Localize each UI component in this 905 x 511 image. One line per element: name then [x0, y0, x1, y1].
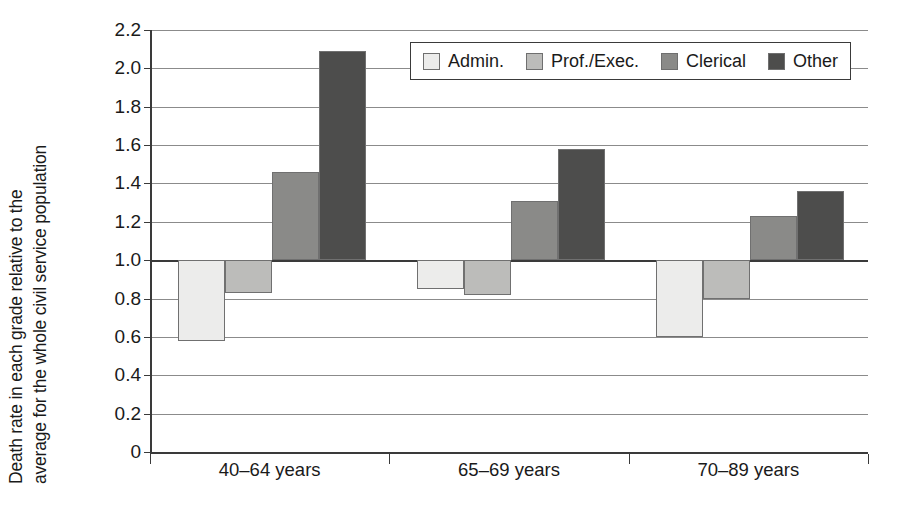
y-tick-label: 0.2	[115, 403, 141, 425]
y-tick-mark-0.8	[144, 299, 152, 300]
y-tick-mark-0.4	[144, 375, 152, 376]
bar-prof-exec-group-2	[464, 260, 511, 295]
y-tick-mark-2.0	[144, 68, 152, 69]
y-tick-label: 1.2	[115, 211, 141, 233]
x-tick-mark	[150, 454, 151, 464]
plot-area: 00.20.40.60.81.01.21.41.61.82.02.2	[150, 30, 868, 452]
bar-other-group-3	[797, 191, 844, 260]
y-tick-mark-1.0	[144, 260, 152, 261]
x-tick-mark	[629, 454, 630, 464]
bar-clerical-group-2	[511, 201, 558, 260]
y-tick-label: 2.0	[115, 57, 141, 79]
bar-admin-group-3	[656, 260, 703, 337]
bar-other-group-1	[319, 51, 366, 260]
y-tick-label: 1.4	[115, 172, 141, 194]
bar-admin-group-2	[417, 260, 464, 289]
bar-prof-exec-group-1	[225, 260, 272, 293]
legend-swatch-admin	[423, 53, 440, 70]
chart-figure: Death rate in each grade relative to the…	[0, 0, 905, 511]
legend-label: Clerical	[686, 51, 746, 72]
legend-label: Admin.	[448, 51, 504, 72]
bar-other-group-2	[558, 149, 605, 260]
y-tick-label: 0.8	[115, 288, 141, 310]
y-axis-title-line-1: Death rate in each grade relative to the	[6, 22, 28, 484]
y-tick-label: 0	[130, 441, 141, 463]
y-tick-mark-2.2	[144, 30, 152, 31]
legend-swatch-clerical	[661, 53, 678, 70]
legend-swatch-prof-exec	[526, 53, 543, 70]
x-axis	[150, 452, 868, 454]
bar-clerical-group-3	[750, 216, 797, 260]
y-tick-mark-1.8	[144, 107, 152, 108]
y-tick-label: 0.4	[115, 364, 141, 386]
y-tick-label: 1.6	[115, 134, 141, 156]
x-category-label-3: 70–89 years	[697, 459, 799, 481]
y-axis-title: Death rate in each grade relative to the…	[0, 0, 96, 470]
bar-prof-exec-group-3	[703, 260, 750, 298]
legend-swatch-other	[768, 53, 785, 70]
chart-legend: Admin.Prof./Exec.ClericalOther	[410, 42, 851, 80]
x-category-label-1: 40–64 years	[219, 459, 321, 481]
legend-item-other[interactable]: Other	[768, 51, 838, 72]
y-tick-label: 1.8	[115, 96, 141, 118]
y-tick-mark-1.4	[144, 183, 152, 184]
x-tick-mark	[868, 454, 869, 464]
y-axis-title-line-2: average for the whole civil service popu…	[30, 22, 52, 484]
y-tick-mark-0.6	[144, 337, 152, 338]
bar-admin-group-1	[178, 260, 225, 341]
y-tick-label: 0.6	[115, 326, 141, 348]
legend-item-clerical[interactable]: Clerical	[661, 51, 746, 72]
legend-item-prof-exec[interactable]: Prof./Exec.	[526, 51, 639, 72]
y-tick-mark-1.6	[144, 145, 152, 146]
y-tick-label: 1.0	[115, 249, 141, 271]
legend-item-admin[interactable]: Admin.	[423, 51, 504, 72]
y-tick-label: 2.2	[115, 19, 141, 41]
x-category-label-2: 65–69 years	[458, 459, 560, 481]
x-tick-mark	[389, 454, 390, 464]
legend-label: Other	[793, 51, 838, 72]
bar-series-container	[152, 30, 868, 452]
y-tick-mark-1.2	[144, 222, 152, 223]
bar-clerical-group-1	[272, 172, 319, 260]
y-tick-mark-0.2	[144, 414, 152, 415]
legend-label: Prof./Exec.	[551, 51, 639, 72]
